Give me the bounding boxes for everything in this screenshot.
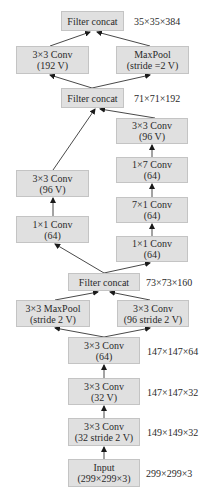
node-sublabel: (64): [144, 170, 161, 181]
node-label: 3×3 MaxPool: [26, 303, 81, 314]
maxpool-stride-2v: MaxPool (stride =2 V): [116, 46, 189, 74]
node-label: 3×3 Conv: [133, 303, 173, 314]
node-label: 1×1 Conv: [33, 219, 73, 230]
node-sublabel: (stride 2 V): [30, 314, 76, 325]
edge-left-3x3-to-concat-mid: [53, 109, 95, 170]
dimension-label-concat-mid: 71×71×192: [134, 93, 180, 104]
node-label: Filter concat: [67, 93, 117, 104]
edge-concat-mid-to-conv192: [50, 75, 92, 88]
left-conv-1x1: 1×1 Conv (64): [16, 216, 89, 243]
node-sublabel: (96 stride 2 V): [124, 314, 182, 325]
node-label: 3×3 Conv: [33, 173, 73, 184]
node-label: 1×7 Conv: [132, 159, 172, 170]
right-conv-1x1: 1×1 Conv (64): [116, 236, 188, 262]
edge-maxpool-to-concat-low: [55, 292, 98, 300]
dimension-label-concat-low: 73×73×160: [146, 277, 192, 288]
node-sublabel: (32 V): [91, 392, 117, 403]
node-label: 3×3 Conv: [84, 340, 124, 351]
node-sublabel: (96 V): [139, 131, 165, 142]
dimension-label-conv32s2: 149×149×32: [147, 427, 198, 438]
input-node: Input (299×299×3): [68, 459, 140, 487]
node-sublabel: (64): [96, 351, 113, 362]
maxpool-3x3-stride-2v: 3×3 MaxPool (stride 2 V): [16, 300, 90, 327]
node-sublabel: (64): [144, 249, 161, 260]
right-conv-7x1: 7×1 Conv (64): [116, 197, 188, 223]
conv-3x3-32v: 3×3 Conv (32 V): [68, 378, 140, 405]
node-label: Filter concat: [67, 16, 117, 27]
dimension-label-conv32v: 147×147×32: [147, 387, 198, 398]
node-sublabel: (64): [144, 210, 161, 221]
edge-concat-low-to-left-1x1: [55, 244, 104, 273]
dimension-label-conv64: 147×147×64: [147, 346, 198, 357]
edge-maxpool-to-concat-top: [97, 32, 150, 46]
left-conv-3x3-96v: 3×3 Conv (96 V): [16, 170, 89, 197]
dimension-label-input: 299×299×3: [146, 468, 192, 479]
right-conv-3x3-96v: 3×3 Conv (96 V): [116, 118, 188, 144]
conv-3x3-64: 3×3 Conv (64): [68, 337, 140, 364]
node-sublabel: (64): [44, 230, 61, 241]
filter-concat-low: Filter concat: [68, 273, 140, 291]
right-conv-1x7: 1×7 Conv (64): [116, 157, 188, 183]
node-label: 3×3 Conv: [84, 421, 124, 432]
edge-concat-mid-to-maxpool: [92, 75, 150, 88]
node-sublabel: (32 stride 2 V): [75, 432, 133, 443]
filter-concat-top: Filter concat: [61, 11, 124, 31]
edge-conv192-to-concat-top: [50, 32, 90, 46]
conv-3x3-32-stride-2v: 3×3 Conv (32 stride 2 V): [68, 418, 140, 446]
edge-conv64-to-conv96s2: [104, 328, 150, 337]
node-label: 3×3 Conv: [132, 120, 172, 131]
node-sublabel: (96 V): [39, 184, 65, 195]
node-label: Filter concat: [79, 277, 129, 288]
edge-concat-low-to-right-1x1: [104, 263, 150, 273]
node-sublabel: (299×299×3): [78, 473, 131, 484]
node-label: 3×3 Conv: [84, 381, 124, 392]
node-sublabel: (stride =2 V): [127, 60, 179, 71]
node-label: 3×3 Conv: [33, 49, 73, 60]
filter-concat-mid: Filter concat: [61, 88, 124, 108]
edge-right-3x3-to-concat-mid: [100, 109, 155, 118]
edge-conv96s2-to-concat-low: [110, 292, 150, 300]
edge-conv64-to-maxpool: [55, 328, 104, 337]
node-label: 1×1 Conv: [132, 238, 172, 249]
node-label: 7×1 Conv: [132, 199, 172, 210]
node-label: MaxPool: [134, 49, 171, 60]
conv-3x3-192v: 3×3 Conv (192 V): [16, 46, 89, 74]
node-label: Input: [93, 462, 114, 473]
conv-3x3-96-stride-2v: 3×3 Conv (96 stride 2 V): [117, 300, 189, 327]
node-sublabel: (192 V): [37, 60, 68, 71]
dimension-label-concat-top: 35×35×384: [134, 16, 180, 27]
